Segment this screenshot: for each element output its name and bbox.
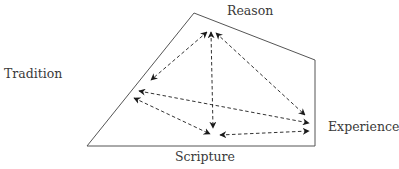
node-label-scripture: Scripture [175, 151, 235, 164]
node-label-tradition: Tradition [4, 68, 62, 81]
arrow-reason-scripture [211, 32, 213, 128]
node-label-reason: Reason [227, 5, 273, 18]
node-label-experience: Experience [328, 121, 399, 134]
arrow-tradition-scripture [134, 98, 210, 134]
arrow-scripture-experience [220, 131, 309, 135]
arrow-reason-experience [216, 33, 305, 115]
quadrilateral-outline [87, 13, 315, 146]
